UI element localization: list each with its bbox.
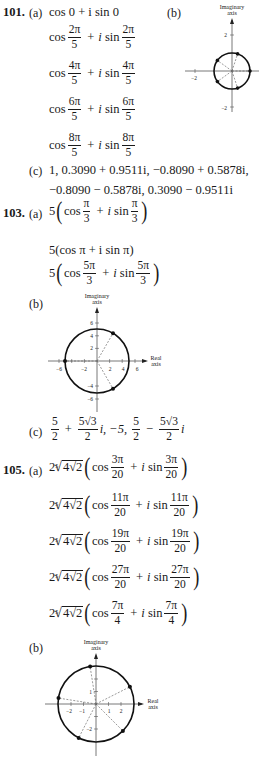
- p101-c-line-1: 1, 0.3090 + 0.9511i, −0.8090 + 0.5878i,: [49, 163, 249, 178]
- svg-text:2: 2: [90, 345, 93, 351]
- problem-103-part-a-label: (a): [29, 207, 42, 222]
- svg-text:1: 1: [89, 689, 92, 695]
- svg-text:−4: −4: [87, 383, 93, 389]
- svg-text:−6: −6: [87, 396, 93, 402]
- p101-a-line-2: cos 2π5 +i sin 2π5: [49, 24, 137, 50]
- p101-a-expr-1: cos 0 + i sin 0: [49, 5, 119, 20]
- arrow-up-icon: [95, 307, 99, 313]
- p103-complex-plane-graph: Imaginary axis Real axis −6 −2 2 4 6 6 4…: [40, 290, 180, 430]
- arrow-up-icon: [94, 653, 98, 659]
- fraction: 2π5: [68, 24, 82, 50]
- p103-a-line-3: 5( cos 5π3 +i sin 5π3): [49, 260, 161, 286]
- p105-a-line-2: 25√4√2( cos 11π20 +i sin 11π20): [49, 492, 199, 518]
- p101-a-line-1: cos 0 + i sin 0: [49, 5, 119, 20]
- svg-text:axis: axis: [151, 361, 161, 367]
- svg-text:6: 6: [136, 366, 139, 372]
- svg-text:−2: −2: [221, 105, 227, 111]
- p101-a-line-4: cos 6π5 +i sin 6π5: [49, 96, 137, 122]
- p105-a-line-5: 25√4√2( cos 7π4 +i sin 7π4): [49, 600, 189, 626]
- svg-text:4: 4: [122, 366, 125, 372]
- fraction: 2π5: [122, 24, 136, 50]
- svg-text:−2: −2: [81, 366, 87, 372]
- p103-c-line: 52 + 5√32 i, −5, 52 − 5√32 i: [49, 416, 184, 442]
- p101-a-line-5: cos 8π5 +i sin 8π5: [49, 132, 137, 158]
- problem-103-number: 103.: [3, 206, 25, 221]
- problem-101-number: 101.: [3, 5, 25, 20]
- arrow-up-icon: [230, 18, 234, 24]
- problem-103-part-c-label: (c): [29, 425, 42, 440]
- svg-text:4: 4: [90, 333, 93, 339]
- svg-text:2: 2: [120, 708, 123, 714]
- arrow-right-icon: [138, 702, 144, 706]
- p101-complex-plane-graph: Imaginary axis −2 2 −2: [175, 0, 259, 120]
- svg-text:−2: −2: [66, 708, 72, 714]
- svg-text:axis: axis: [92, 299, 102, 305]
- svg-text:axis: axis: [91, 645, 101, 651]
- p105-complex-plane-graph: Imaginary axis Real axis −2 −1 1 2 1 −2: [40, 638, 180, 761]
- problem-105-number: 105.: [3, 463, 25, 478]
- svg-text:−1: −1: [79, 708, 85, 714]
- svg-text:2: 2: [224, 32, 227, 38]
- p105-a-line-1: 25√4√2( cos 3π20 +i sin 3π20): [49, 454, 189, 480]
- svg-text:2: 2: [109, 366, 112, 372]
- p101-a-line-3: cos 4π5 +i sin 4π5: [49, 60, 137, 86]
- problem-101-part-c-label: (c): [29, 164, 42, 179]
- svg-text:axis: axis: [227, 10, 237, 16]
- arrow-right-icon: [142, 359, 148, 363]
- problem-101-part-a-label: (a): [29, 6, 42, 21]
- svg-text:−2: −2: [191, 75, 197, 81]
- svg-text:6: 6: [90, 320, 93, 326]
- svg-text:−6: −6: [56, 366, 62, 372]
- p105-a-line-4: 25√4√2( cos 27π20 +i sin 27π20): [49, 564, 200, 590]
- p103-a-line-2: 5(cos π + i sin π): [49, 243, 134, 258]
- svg-text:−2: −2: [86, 726, 92, 732]
- p103-a-line-1: 5( cos π3 +i sin π3): [49, 198, 149, 224]
- problem-105-part-a-label: (a): [29, 464, 42, 479]
- svg-text:1: 1: [108, 708, 111, 714]
- svg-text:axis: axis: [148, 704, 158, 710]
- p105-a-line-3: 25√4√2( cos 19π20 +i sin 19π20): [49, 528, 200, 554]
